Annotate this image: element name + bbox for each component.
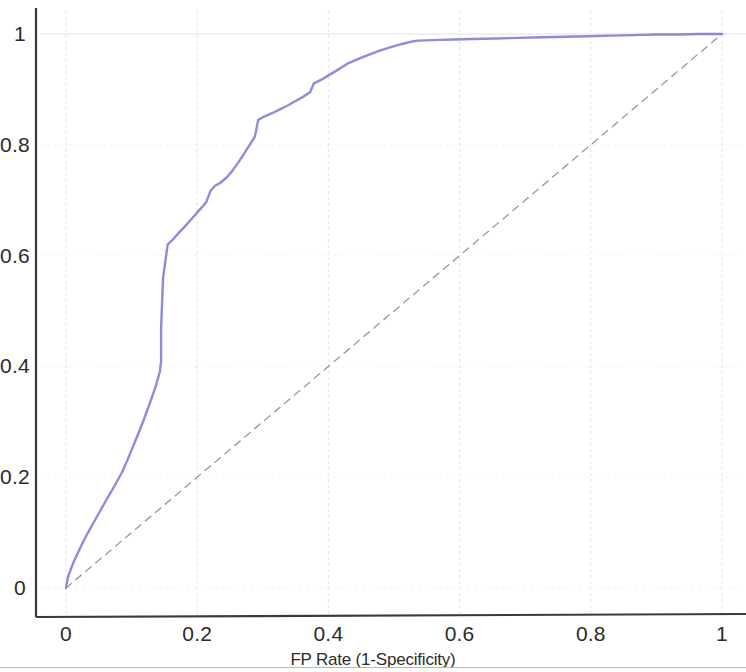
y-tick-label: 0.2 (0, 465, 26, 489)
x-axis-spine (36, 614, 746, 617)
x-tick-label: 0.6 (445, 622, 475, 646)
x-tick-label: 1 (716, 622, 728, 646)
x-tick-label: 0.2 (182, 622, 212, 646)
roc-chart-figure: 00.20.40.60.8100.20.40.60.81 FP Rate (1-… (0, 0, 746, 672)
gridlines (40, 8, 746, 614)
y-tick-label: 0.8 (0, 133, 26, 157)
x-tick-label: 0.4 (313, 622, 343, 646)
plot-canvas (0, 0, 746, 672)
axis-spines (36, 8, 746, 617)
data-series-group (66, 34, 722, 588)
y-tick-label: 1 (0, 22, 26, 46)
x-tick-label: 0.8 (576, 622, 606, 646)
reference-diagonal-line (66, 34, 722, 588)
page-edge-rule (0, 667, 746, 668)
y-tick-label: 0.6 (0, 244, 26, 268)
x-tick-label: 0 (60, 622, 72, 646)
y-tick-label: 0 (0, 576, 26, 600)
y-tick-label: 0.4 (0, 354, 26, 378)
